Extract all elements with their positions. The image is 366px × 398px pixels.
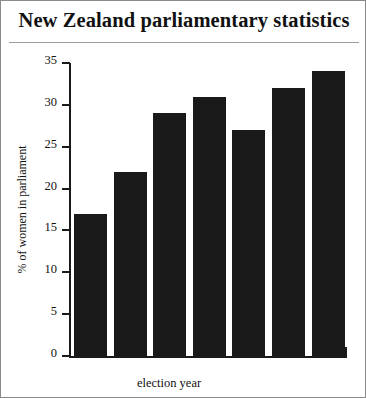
y-tick-label: 35 — [45, 53, 58, 68]
y-tick: 35 — [62, 62, 70, 64]
y-tick: 20 — [62, 188, 70, 190]
y-tick-label: 10 — [45, 262, 58, 277]
x-axis-title: election year — [69, 376, 269, 391]
y-tick-label: 0 — [51, 346, 57, 361]
bar-series: 1990199319961999200220052008 — [71, 63, 347, 356]
x-axis-line — [69, 356, 347, 358]
bar — [312, 71, 345, 356]
bar — [272, 88, 305, 356]
y-axis-title: % of women in parliament — [15, 63, 31, 356]
y-tick: 5 — [62, 313, 70, 315]
bar — [114, 172, 147, 356]
y-tick-label: 5 — [51, 304, 57, 319]
chart-title: New Zealand parliamentary statistics — [1, 9, 366, 32]
y-tick: 30 — [62, 104, 70, 106]
title-divider — [9, 42, 359, 43]
y-tick: 10 — [62, 271, 70, 273]
y-axis-title-label: % of women in parliament — [16, 146, 31, 274]
bar — [193, 97, 226, 357]
y-tick-label: 20 — [45, 179, 58, 194]
bar — [153, 113, 186, 356]
y-tick-label: 15 — [45, 220, 58, 235]
bar — [232, 130, 265, 356]
y-tick-label: 30 — [45, 95, 58, 110]
y-tick: 15 — [62, 229, 70, 231]
plot-area: 05101520253035 1990199319961999200220052… — [69, 63, 347, 356]
y-tick: 0 — [62, 355, 70, 357]
y-tick-label: 25 — [45, 137, 58, 152]
bar — [74, 214, 107, 356]
chart-figure: New Zealand parliamentary statistics % o… — [0, 0, 366, 398]
y-tick: 25 — [62, 146, 70, 148]
